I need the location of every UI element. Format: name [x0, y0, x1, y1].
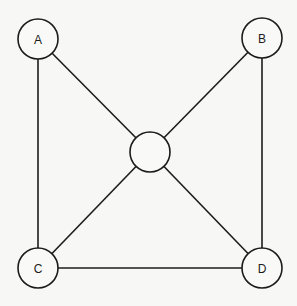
node-circle	[130, 132, 170, 172]
graph-diagram: ABCD	[0, 0, 297, 306]
node-label: B	[258, 32, 266, 46]
node-d: D	[242, 248, 282, 288]
node-a: A	[18, 19, 58, 59]
edge-a-center	[38, 39, 150, 152]
node-c: C	[18, 248, 58, 288]
edge-c-center	[38, 152, 150, 268]
node-b: B	[242, 18, 282, 58]
node-label: C	[34, 262, 43, 276]
node-center	[130, 132, 170, 172]
node-label: A	[34, 33, 42, 47]
edge-d-center	[150, 152, 262, 268]
edge-b-center	[150, 38, 262, 152]
node-label: D	[258, 262, 267, 276]
